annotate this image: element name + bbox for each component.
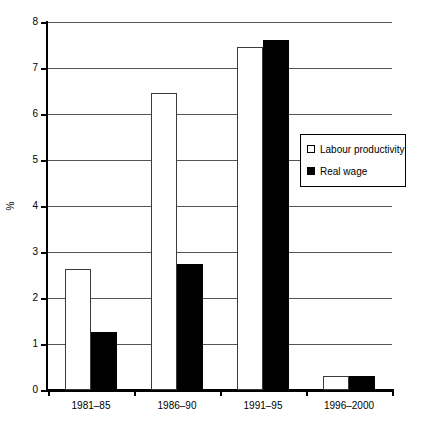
- gridline: [48, 206, 392, 207]
- y-axis-tick: [41, 344, 47, 346]
- y-axis-tick-label: 5: [4, 155, 38, 165]
- x-axis-tick: [48, 390, 50, 396]
- x-axis-tick-label: 1986–90: [134, 400, 220, 411]
- y-axis-tick-label: 7: [4, 63, 38, 73]
- x-axis-tick: [220, 390, 222, 396]
- bar: [263, 40, 289, 390]
- y-axis-tick: [41, 68, 47, 70]
- x-axis-tick-label: 1981–85: [48, 400, 134, 411]
- legend-item-label: Real wage: [320, 166, 367, 177]
- y-axis-tick-label: 1: [4, 339, 38, 349]
- y-axis-tick-label: 0: [4, 385, 38, 395]
- x-axis-tick-label: 1996–2000: [306, 400, 392, 411]
- gridline: [48, 252, 392, 253]
- y-axis-tick-label: 6: [4, 109, 38, 119]
- y-axis-tick: [41, 22, 47, 24]
- y-axis-tick: [41, 160, 47, 162]
- x-axis-tick: [134, 390, 136, 396]
- plot-area: [48, 22, 392, 390]
- bar: [323, 376, 349, 390]
- y-axis-tick: [41, 252, 47, 254]
- gridline: [48, 298, 392, 299]
- y-axis-tick: [41, 114, 47, 116]
- legend-swatch-icon: [307, 167, 315, 175]
- gridline: [48, 22, 392, 23]
- bar: [65, 269, 91, 390]
- bar: [237, 47, 263, 390]
- y-axis-tick-label: 8: [4, 17, 38, 27]
- gridline: [48, 68, 392, 69]
- y-axis-title: %: [6, 202, 16, 211]
- y-axis-tick: [41, 390, 47, 392]
- y-axis-tick-label: 3: [4, 247, 38, 257]
- y-axis-tick-label: 2: [4, 293, 38, 303]
- bar: [91, 332, 117, 390]
- bar: [349, 376, 375, 390]
- y-axis-tick: [41, 206, 47, 208]
- legend-swatch-icon: [307, 145, 315, 153]
- x-axis-tick-label: 1991–95: [220, 400, 306, 411]
- legend-item: Labour productivity: [307, 141, 399, 157]
- bar: [151, 93, 177, 390]
- x-axis-tick: [306, 390, 308, 396]
- chart-legend: Labour productivityReal wage: [300, 134, 406, 187]
- bar-chart: 012345678 % Labour productivityReal wage…: [0, 0, 425, 429]
- y-axis-tick-labels: 012345678: [0, 0, 38, 429]
- y-axis-tick: [41, 298, 47, 300]
- legend-item-label: Labour productivity: [320, 144, 405, 155]
- x-axis-tick: [392, 390, 394, 396]
- gridline: [48, 114, 392, 115]
- legend-item: Real wage: [307, 163, 399, 179]
- bar: [177, 264, 203, 390]
